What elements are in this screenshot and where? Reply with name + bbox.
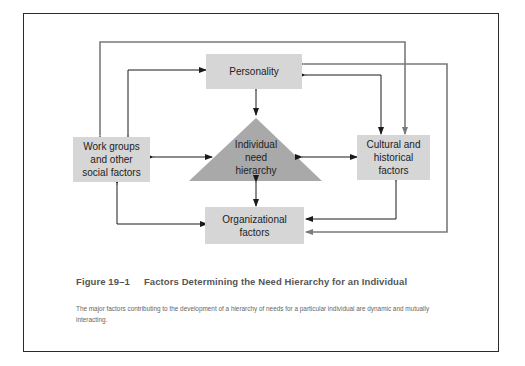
node-cultural: Cultural and historical factors [357, 135, 430, 180]
edge-personality-cultural [305, 75, 381, 134]
figure-number: Figure 19–1 [76, 276, 130, 287]
node-work-groups-label: Work groups and other social factors [82, 140, 140, 179]
node-personality-label: Personality [229, 65, 278, 78]
node-center-label: Individual need hierarchy [220, 138, 292, 177]
edge-workgroups-personality [128, 70, 206, 136]
node-personality: Personality [206, 54, 302, 89]
node-work-groups: Work groups and other social factors [73, 137, 150, 182]
node-organizational-label: Organizational factors [222, 213, 286, 239]
node-cultural-label: Cultural and historical factors [367, 138, 421, 177]
edge-cultural-organizational [306, 181, 396, 219]
edge-workgroups-organizational [117, 184, 207, 224]
node-organizational: Organizational factors [205, 207, 304, 244]
figure-caption-title: Figure 19–1Factors Determining the Need … [76, 276, 407, 287]
figure-caption-body: The major factors contributing to the de… [76, 303, 456, 325]
figure-title: Factors Determining the Need Hierarchy f… [144, 276, 407, 287]
